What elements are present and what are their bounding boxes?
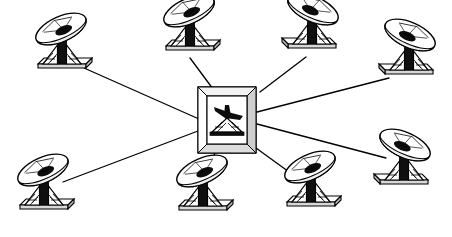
- network-diagram: [0, 0, 452, 237]
- diagram-canvas: [0, 0, 452, 237]
- central-hub[interactable]: [198, 87, 256, 153]
- framed-antenna-tower-icon[interactable]: [198, 87, 256, 153]
